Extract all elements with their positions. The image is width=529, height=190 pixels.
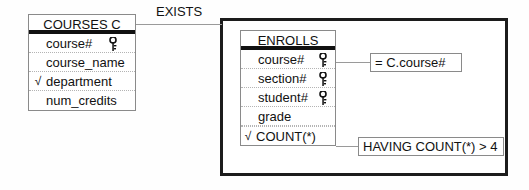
connector-having-condition (336, 146, 358, 147)
table-row[interactable]: grade (241, 107, 335, 126)
field-name: student# (258, 88, 308, 107)
field-name: COUNT(*) (256, 127, 316, 146)
field-name: course# (46, 34, 92, 53)
table-row[interactable]: √ COUNT(*) (241, 126, 335, 145)
connector-join-condition (336, 62, 370, 63)
diagram-canvas: EXISTS COURSES C course# (0, 0, 529, 190)
field-name: department (46, 72, 112, 91)
courses-table-rows: course# course_name √ department (29, 34, 135, 110)
table-row[interactable]: course# (241, 50, 335, 69)
table-row[interactable]: student# (241, 88, 335, 107)
exists-label: EXISTS (156, 4, 202, 19)
field-name: grade (258, 107, 291, 126)
connector-exists (136, 24, 222, 25)
key-icon (109, 37, 118, 51)
row-check-mark: √ (242, 127, 254, 146)
enrolls-table-title: ENROLLS (241, 31, 335, 50)
table-row[interactable]: num_credits (29, 91, 135, 110)
table-row[interactable]: √ department (29, 72, 135, 91)
row-check-mark: √ (32, 72, 44, 91)
key-icon (319, 91, 328, 105)
having-condition-box[interactable]: HAVING COUNT(*) > 4 (358, 137, 504, 156)
enrolls-table-rows: course# section# (241, 50, 335, 145)
key-icon (319, 53, 328, 67)
table-row[interactable]: course# (29, 34, 135, 53)
table-row[interactable]: course_name (29, 53, 135, 72)
field-name: num_credits (46, 91, 117, 110)
field-name: course# (258, 50, 304, 69)
table-row[interactable]: section# (241, 69, 335, 88)
courses-table-title: COURSES C (29, 15, 135, 34)
enrolls-table[interactable]: ENROLLS course# section# (240, 30, 336, 146)
courses-table[interactable]: COURSES C course# course_name (28, 14, 136, 111)
field-name: section# (258, 69, 306, 88)
join-condition-box[interactable]: = C.course# (370, 53, 462, 72)
field-name: course_name (46, 53, 125, 72)
key-icon (319, 72, 328, 86)
